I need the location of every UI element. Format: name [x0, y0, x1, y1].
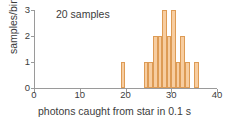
- sample-count-annotation: 20 samples: [56, 8, 110, 20]
- plot-area: [34, 10, 217, 89]
- x-tick-label: 30: [159, 90, 183, 100]
- x-tick-label: 40: [205, 90, 229, 100]
- y-tick-label: 1: [18, 57, 30, 67]
- x-axis-label: photons caught from star in 0.1 s: [0, 105, 229, 117]
- y-tick-label: 3: [18, 5, 30, 15]
- y-tick-label: 2: [18, 31, 30, 41]
- histogram-figure: samples/bin 0123 010203040 20 samples ph…: [0, 0, 229, 124]
- histogram-bar: [121, 62, 126, 88]
- histogram-bar: [194, 62, 199, 88]
- histogram-bar: [185, 62, 190, 88]
- y-tick-mark: [31, 10, 34, 11]
- x-axis-tick-labels: 010203040: [34, 90, 217, 102]
- x-tick-label: 20: [114, 90, 138, 100]
- x-tick-label: 0: [22, 90, 46, 100]
- x-tick-label: 10: [68, 90, 92, 100]
- bar-series: [34, 10, 217, 88]
- y-tick-mark: [31, 62, 34, 63]
- y-tick-mark: [31, 36, 34, 37]
